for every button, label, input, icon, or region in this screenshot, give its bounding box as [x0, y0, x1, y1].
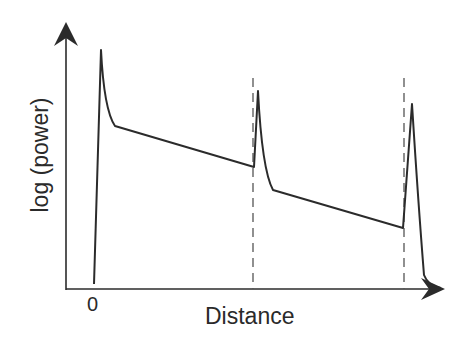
- x-axis: [66, 278, 445, 300]
- x-axis-label: Distance: [205, 303, 294, 330]
- y-axis: [54, 22, 78, 290]
- x-origin-tick-label: 0: [87, 293, 98, 316]
- diagram: 0 Distance log (power): [0, 0, 464, 346]
- y-axis-label: log (power): [27, 97, 54, 212]
- power-trace: [94, 50, 441, 288]
